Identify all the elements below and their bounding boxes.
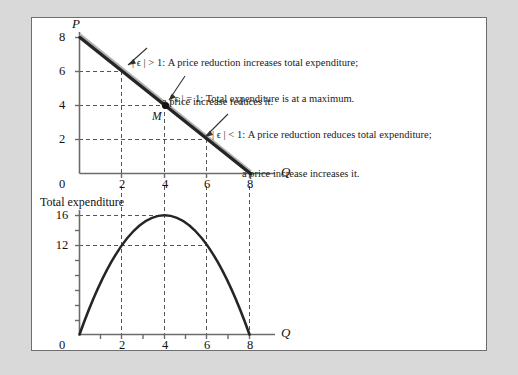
bottom-chart-x-axis-label: Q <box>281 325 290 341</box>
top-chart-ytick-2: 2 <box>54 132 70 147</box>
total-expenditure-curve <box>80 215 250 334</box>
annotation-inelastic-line2: a price increase increases it. <box>212 167 432 180</box>
annotation-inelastic: | ϵ | < 1: A price reduction reduces tot… <box>212 102 432 206</box>
top-chart-ytick-0: 0 <box>54 177 70 192</box>
figure-root: P Q 8 6 4 2 0 2 4 6 8 M Total expenditur… <box>0 0 518 375</box>
top-chart-ytick-8: 8 <box>54 30 70 45</box>
bottom-chart-xtick-8: 8 <box>242 338 258 351</box>
bottom-chart-ytick-0: 0 <box>54 338 70 351</box>
bottom-chart-ytick-12: 12 <box>54 238 70 253</box>
top-chart-xtick-2: 2 <box>114 177 130 192</box>
top-chart-ytick-4: 4 <box>54 98 70 113</box>
bottom-chart-xtick-2: 2 <box>114 338 130 351</box>
top-chart-ytick-6: 6 <box>54 64 70 79</box>
bottom-chart-ticks <box>75 216 250 340</box>
top-chart-xtick-4: 4 <box>157 177 173 192</box>
annotation-inelastic-line1: | ϵ | < 1: A price reduction reduces tot… <box>212 128 432 141</box>
bottom-chart-axes <box>80 210 276 335</box>
top-chart-y-axis-label: P <box>72 17 80 32</box>
bottom-chart-horizontal-guides <box>79 216 207 246</box>
bottom-chart-xtick-6: 6 <box>199 338 215 351</box>
figure-panel: P Q 8 6 4 2 0 2 4 6 8 M Total expenditur… <box>31 17 487 351</box>
bottom-chart-xtick-4: 4 <box>157 338 173 351</box>
bottom-chart-title: Total expenditure <box>40 195 124 210</box>
bottom-chart-ytick-16: 16 <box>54 208 70 223</box>
